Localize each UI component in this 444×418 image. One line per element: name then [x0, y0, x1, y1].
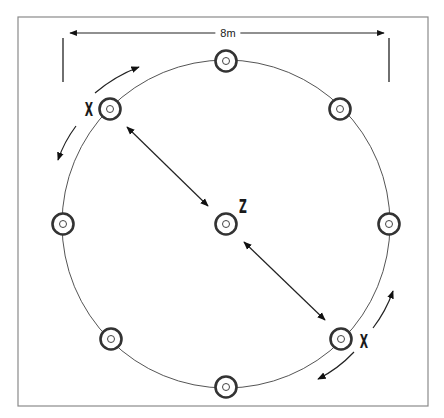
cone-marker-top-right [330, 99, 351, 120]
player-z-center-label: Z [239, 196, 247, 216]
cone-marker-right [379, 214, 400, 235]
cone-marker-top [216, 51, 237, 72]
move-arrow-tl-down [58, 126, 76, 160]
cone-marker-top-left [100, 99, 121, 120]
cone-marker-left [53, 214, 74, 235]
cone-marker-bottom-right [331, 329, 352, 350]
drill-diagram [0, 0, 444, 418]
cone-marker-bottom [216, 377, 237, 398]
cone-marker-center [216, 214, 237, 235]
pass-arrow-bottom-right [244, 242, 325, 320]
player-x-top-left-label: X [85, 99, 93, 119]
cone-marker-bottom-left [101, 329, 122, 350]
dimension-label: 8m [215, 28, 240, 39]
player-x-bottom-right-label: X [360, 331, 368, 351]
pass-arrow-top-left [127, 127, 208, 206]
move-arrow-br-up [373, 291, 393, 328]
